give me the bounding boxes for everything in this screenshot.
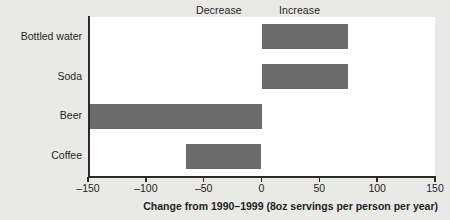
x-tick-label--50: –50 — [184, 182, 224, 194]
x-tick-label-100: 100 — [357, 182, 397, 194]
bar-chart-figure: Decrease Increase Bottled waterSodaBeerC… — [0, 0, 450, 220]
category-label-bottled-water: Bottled water — [0, 30, 82, 42]
category-label-soda: Soda — [0, 70, 82, 82]
category-label-coffee: Coffee — [0, 149, 82, 161]
x-tick-label--100: –100 — [126, 182, 166, 194]
bar-beer — [88, 104, 262, 129]
bar-coffee — [186, 144, 261, 169]
x-tick-label-50: 50 — [299, 182, 339, 194]
increase-direction-label: Increase — [279, 4, 320, 16]
x-axis-title: Change from 1990–1999 (8oz servings per … — [0, 200, 450, 212]
bar-bottled-water — [262, 24, 349, 49]
category-label-beer: Beer — [0, 109, 82, 121]
bar-soda — [262, 64, 349, 89]
x-tick-label-150: 150 — [415, 182, 450, 194]
decrease-direction-label: Decrease — [196, 4, 242, 16]
x-tick-label--150: –150 — [68, 182, 108, 194]
x-tick-label-0: 0 — [242, 182, 282, 194]
y-axis-line — [88, 16, 90, 177]
